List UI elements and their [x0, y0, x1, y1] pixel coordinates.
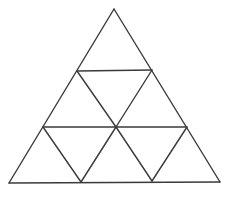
row1-inner-left: [77, 71, 116, 127]
row2-inner-b: [81, 127, 116, 182]
triangle-diagram: [0, 0, 232, 200]
row1-horizontal: [77, 70, 152, 71]
outer-right-edge: [114, 9, 220, 182]
row2-inner-c: [116, 127, 152, 181]
row1-inner-right: [116, 70, 152, 127]
outer-left-edge: [9, 9, 114, 183]
row2-inner-a: [43, 127, 81, 182]
row2-inner-d: [152, 127, 187, 181]
outer-base: [9, 182, 220, 183]
subdivided-triangle-figure: [0, 0, 232, 200]
